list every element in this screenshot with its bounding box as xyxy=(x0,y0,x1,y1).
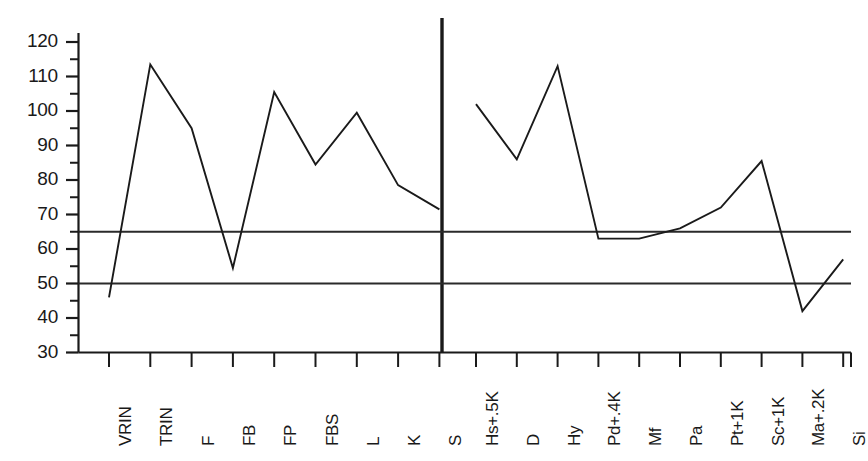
x-axis-tick-label: Sc+1K xyxy=(769,397,789,446)
x-axis-tick-label: Pt+1K xyxy=(728,401,748,446)
y-axis-tick-label: 30 xyxy=(8,341,58,363)
y-axis-tick-label: 80 xyxy=(8,168,58,190)
x-axis-tick-label: VRIN xyxy=(116,407,136,446)
x-axis-tick-label: S xyxy=(446,435,466,446)
x-axis-tick-label: Hy xyxy=(565,426,585,446)
reference-lines xyxy=(79,232,852,284)
x-axis-tick-label: Pa xyxy=(687,426,707,446)
x-axis-tick-label: Mf xyxy=(646,428,666,446)
x-axis-tick-label: FBS xyxy=(323,414,343,446)
x-axis-tick-label: Ma+.2K xyxy=(809,389,829,446)
x-axis-ticks xyxy=(109,353,851,368)
mmpi-profile-chart: 12011010090807060504030 VRINTRINFFBFPFBS… xyxy=(0,0,868,461)
x-axis-tick-label: Pd+.4K xyxy=(605,392,625,446)
x-axis-tick-label: F xyxy=(199,436,219,446)
x-axis-tick-label: D xyxy=(524,434,544,446)
plot-area xyxy=(0,0,868,461)
x-axis-tick-label: K xyxy=(405,435,425,446)
y-axis-tick-label: 120 xyxy=(8,30,58,52)
y-axis-tick-label: 50 xyxy=(8,272,58,294)
x-axis-tick-label: L xyxy=(364,437,384,446)
x-axis-tick-label: Hs+.5K xyxy=(483,392,503,446)
y-axis-tick-label: 40 xyxy=(8,306,58,328)
x-axis-tick-label: FB xyxy=(240,425,260,446)
x-axis-tick-label: TRIN xyxy=(157,408,177,446)
y-axis-tick-label: 60 xyxy=(8,237,58,259)
data-series xyxy=(109,64,843,311)
y-axis-minor-ticks xyxy=(70,59,79,335)
y-axis-tick-label: 70 xyxy=(8,203,58,225)
y-axis-tick-label: 110 xyxy=(8,65,58,87)
x-axis-tick-label: Si xyxy=(850,431,868,446)
y-axis-tick-label: 100 xyxy=(8,99,58,121)
y-axis-tick-label: 90 xyxy=(8,134,58,156)
x-axis-tick-label: FP xyxy=(281,425,301,446)
